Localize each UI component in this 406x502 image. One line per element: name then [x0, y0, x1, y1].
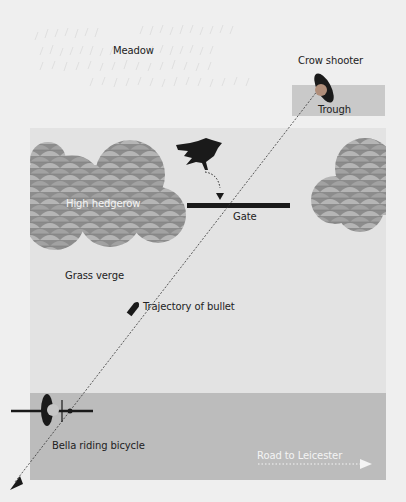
arrow-down-icon: [216, 193, 224, 200]
bicycle-rider-icon: [11, 394, 93, 426]
cyclist-label: Bella riding bicycle: [52, 440, 145, 451]
crow-drop-arrow: [205, 172, 220, 188]
right-hedgerow: [311, 138, 395, 232]
gate-label: Gate: [233, 211, 257, 222]
high-hedgerow-label: High hedgerow: [66, 198, 140, 209]
arrow-down-left-icon: [10, 476, 23, 490]
arrow-right-icon: [360, 459, 372, 469]
road-label: Road to Leicester: [257, 450, 342, 461]
trough-label: Trough: [318, 104, 351, 115]
gate-bar: [187, 203, 290, 208]
grass-verge-label: Grass verge: [65, 270, 124, 281]
meadow-grass-texture: [35, 25, 249, 87]
left-hedgerow: [25, 140, 186, 250]
trajectory-label: Trajectory of bullet: [143, 301, 235, 312]
scene-graphics: [0, 0, 406, 502]
crow-shooter-icon: [310, 71, 337, 106]
crow-shooter-label: Crow shooter: [298, 55, 363, 66]
bullet-icon: [127, 301, 141, 317]
crow-icon: [176, 138, 222, 170]
meadow-label: Meadow: [113, 45, 154, 56]
